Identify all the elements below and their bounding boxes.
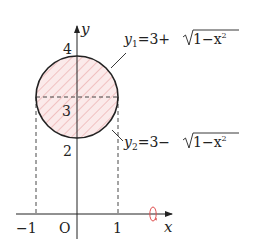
svg-text:y1=3+: y1=3+ <box>123 31 170 49</box>
lower-radicand: 1−x <box>193 134 222 150</box>
upper-curve-label: y1=3+ 1−x2 <box>123 30 239 49</box>
upper-radicand: 1−x <box>193 31 222 47</box>
upper-expr: =3+ <box>138 31 170 47</box>
y-axis-label: y <box>80 20 90 38</box>
leader-line-upper <box>111 53 126 68</box>
lower-curve-label: y2=3− 1−x2 <box>123 133 239 152</box>
svg-text:1−x2: 1−x2 <box>193 31 227 47</box>
origin-label: O <box>59 220 70 236</box>
y-tick-4: 4 <box>63 41 72 57</box>
svg-text:y2=3−: y2=3− <box>123 134 170 152</box>
x-tick-neg1: −1 <box>16 220 37 236</box>
y-tick-2: 2 <box>63 143 72 159</box>
x-axis-label: x <box>164 218 173 236</box>
x-tick-1: 1 <box>113 220 122 236</box>
volume-of-revolution-diagram: y x O −1 1 4 3 2 y1=3+ 1−x2 y2=3− 1−x2 <box>0 0 258 249</box>
leader-line-lower <box>112 130 123 141</box>
y-tick-3: 3 <box>62 103 71 119</box>
lower-expr: =3− <box>138 134 170 150</box>
lower-exp: 2 <box>222 134 227 143</box>
upper-exp: 2 <box>222 31 227 40</box>
svg-text:1−x2: 1−x2 <box>193 134 227 150</box>
